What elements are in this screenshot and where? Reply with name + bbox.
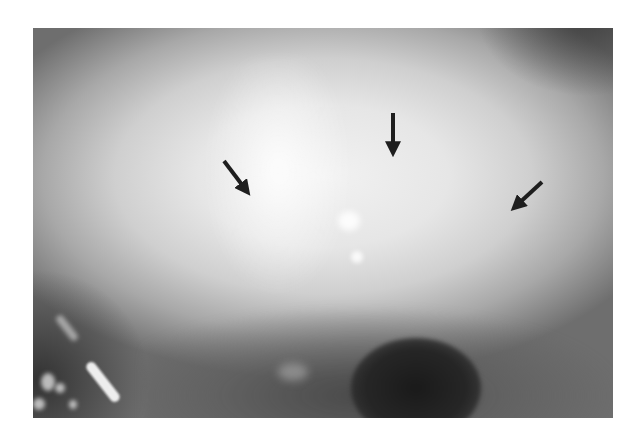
- arrow-icon: [224, 161, 246, 190]
- annotation-arrows: [0, 0, 642, 440]
- arrow-icon: [516, 182, 542, 206]
